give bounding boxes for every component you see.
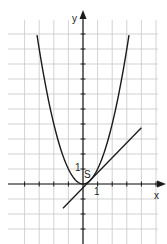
axis-ticks: [25, 34, 156, 229]
x-axis-label: x: [154, 191, 159, 201]
coordinate-graph: [0, 0, 167, 244]
y-axis-arrow-icon: [80, 10, 87, 19]
x-axis-arrow-icon: [157, 181, 166, 188]
y-axis-label: y: [72, 14, 77, 24]
point-s-label: S: [84, 170, 91, 180]
x-tick-label: 1: [94, 187, 100, 197]
y-tick-label: 1: [75, 163, 81, 173]
